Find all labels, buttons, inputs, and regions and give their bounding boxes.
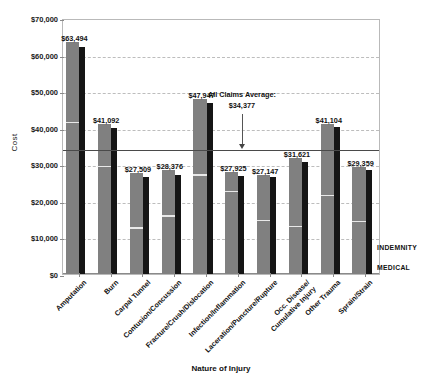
y-tick-label: $10,000 [2, 234, 58, 243]
bar-medical[interactable] [79, 47, 85, 274]
x-tick-mark [206, 273, 207, 277]
x-tick-mark [301, 273, 302, 277]
x-tick-label: Amputation [54, 278, 89, 313]
legend-label-medical: MEDICAL [377, 264, 410, 271]
x-tick-mark [111, 273, 112, 277]
bar-medical[interactable] [366, 170, 372, 274]
bar-segment-divider [321, 195, 334, 196]
bar-indemnity[interactable] [130, 173, 143, 274]
y-tick-label: $70,000 [2, 15, 58, 24]
x-axis-tick-labels: AmputationBurnCarpal TunnelContusion/Con… [62, 276, 380, 362]
bar-value-label: $31,621 [284, 150, 310, 159]
bar-medical[interactable] [143, 177, 149, 274]
x-tick-mark [270, 273, 271, 277]
bar-value-label: $63,494 [61, 34, 87, 43]
average-annotation: All Claims Average:$34,377 [208, 90, 276, 111]
average-reference-line [63, 150, 379, 151]
bar-value-label: $27,925 [220, 164, 246, 173]
bar-value-label: $27,509 [125, 165, 151, 174]
bars-layer: $63,494$41,092$27,509$28,376$47,947$27,9… [63, 20, 379, 274]
bar-segment-divider [289, 226, 302, 227]
x-tick-mark [238, 273, 239, 277]
bar-indemnity[interactable] [352, 167, 365, 274]
bar-group [162, 20, 187, 274]
x-tick-mark [333, 273, 334, 277]
bar-group [352, 20, 377, 274]
bar-segment-divider [66, 122, 79, 123]
bar-group [66, 20, 91, 274]
bar-group [321, 20, 346, 274]
bar-indemnity[interactable] [193, 99, 206, 274]
plot-area: $63,494$41,092$27,509$28,376$47,947$27,9… [62, 19, 380, 275]
bar-medical[interactable] [334, 127, 340, 274]
bar-indemnity[interactable] [321, 124, 334, 274]
bar-indemnity[interactable] [257, 175, 270, 274]
x-tick-mark [174, 273, 175, 277]
bar-segment-divider [98, 166, 111, 167]
x-tick-mark [365, 273, 366, 277]
bar-segment-divider [225, 191, 238, 192]
bar-segment-divider [352, 221, 365, 222]
average-annotation-line1: All Claims Average: [208, 90, 276, 101]
bar-segment-divider [162, 215, 175, 216]
y-tick-label: $30,000 [2, 161, 58, 170]
bar-medical[interactable] [207, 103, 213, 274]
x-axis-title: Nature of Injury [62, 364, 380, 373]
bar-medical[interactable] [270, 177, 276, 274]
bar-medical[interactable] [302, 162, 308, 274]
bar-group [193, 20, 218, 274]
legend-label-indemnity: INDEMNITY [377, 244, 417, 251]
bar-group [289, 20, 314, 274]
bar-value-label: $41,104 [316, 116, 342, 125]
average-annotation-arrowhead [239, 144, 245, 149]
bar-value-label: $27,147 [252, 167, 278, 176]
x-tick-mark [79, 273, 80, 277]
bar-chart: Cost $0$10,000$20,000$30,000$40,000$50,0… [0, 0, 440, 387]
y-axis-tick-labels: $0$10,000$20,000$30,000$40,000$50,000$60… [2, 19, 58, 275]
x-tick-mark [142, 273, 143, 277]
y-tick-label: $20,000 [2, 197, 58, 206]
x-tick-label: Infection/Inflammation [187, 278, 248, 339]
bar-indemnity[interactable] [66, 42, 79, 274]
bar-indemnity[interactable] [98, 124, 111, 274]
x-tick-label: Burn [102, 278, 120, 296]
bar-segment-divider [193, 174, 206, 175]
bar-medical[interactable] [175, 175, 181, 274]
bar-indemnity[interactable] [162, 170, 175, 274]
x-tick-label: Contusion/Concussion [122, 278, 184, 340]
y-tick-label: $40,000 [2, 124, 58, 133]
bar-medical[interactable] [238, 176, 244, 274]
bar-value-label: $41,092 [93, 116, 119, 125]
average-annotation-line2: $34,377 [208, 101, 276, 112]
bar-group [130, 20, 155, 274]
bar-group [257, 20, 282, 274]
y-tick-label: $0 [2, 271, 58, 280]
bar-segment-divider [130, 227, 143, 228]
bar-indemnity[interactable] [225, 172, 238, 274]
bar-value-label: $29,359 [347, 159, 373, 168]
bar-indemnity[interactable] [289, 158, 302, 274]
bar-segment-divider [257, 220, 270, 221]
y-tick-label: $50,000 [2, 88, 58, 97]
bar-group [98, 20, 123, 274]
y-tick-label: $60,000 [2, 51, 58, 60]
bar-value-label: $28,376 [157, 162, 183, 171]
bar-group [225, 20, 250, 274]
average-annotation-arrow [242, 114, 243, 145]
